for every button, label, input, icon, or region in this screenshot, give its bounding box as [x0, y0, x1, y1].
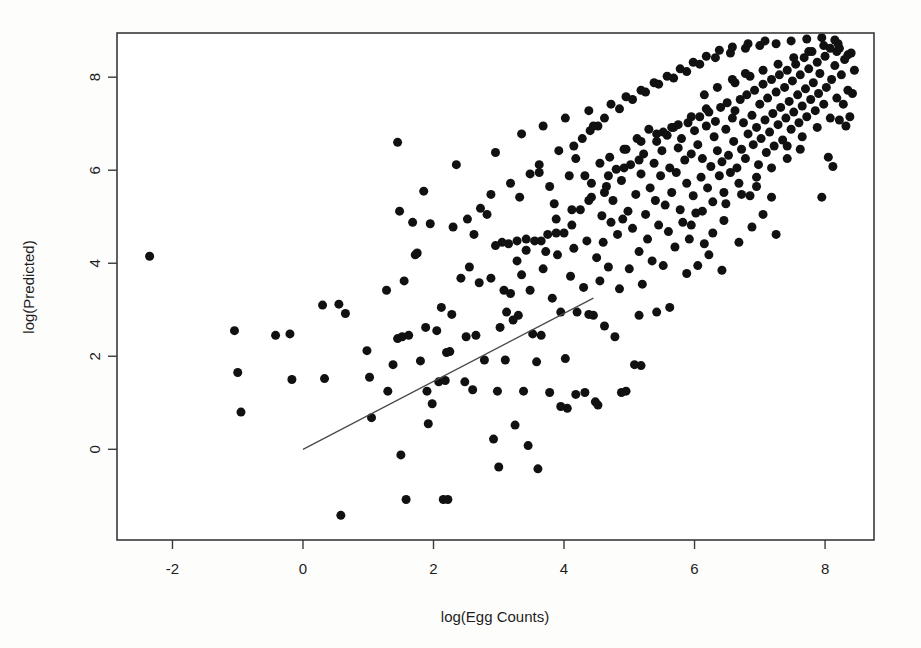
- data-point: [613, 230, 622, 239]
- data-point: [625, 264, 634, 273]
- data-point: [475, 278, 484, 287]
- y-tick-label: 2: [87, 352, 104, 360]
- data-point: [830, 35, 839, 44]
- data-point: [796, 70, 805, 79]
- data-point: [643, 235, 652, 244]
- data-point: [676, 205, 685, 214]
- data-point: [713, 146, 722, 155]
- data-point: [693, 140, 702, 149]
- data-point: [402, 495, 411, 504]
- data-point: [600, 322, 609, 331]
- y-tick-label: 8: [87, 73, 104, 81]
- data-point: [809, 78, 818, 87]
- data-point: [819, 41, 828, 50]
- data-point: [334, 300, 343, 309]
- data-point: [772, 88, 781, 97]
- data-point: [560, 229, 569, 238]
- data-point: [744, 39, 753, 48]
- data-point: [526, 286, 535, 295]
- data-point: [793, 90, 802, 99]
- data-point: [612, 165, 621, 174]
- x-tick-label: -2: [166, 560, 179, 577]
- data-point: [617, 176, 626, 185]
- data-point: [539, 122, 548, 131]
- data-point: [437, 303, 446, 312]
- data-point: [515, 193, 524, 202]
- data-point: [821, 52, 830, 61]
- data-point: [565, 171, 574, 180]
- data-point: [806, 95, 815, 104]
- data-point: [657, 146, 666, 155]
- data-point: [287, 375, 296, 384]
- data-point: [700, 239, 709, 248]
- data-point: [845, 112, 854, 121]
- data-point: [637, 137, 646, 146]
- data-point: [511, 421, 520, 430]
- data-point: [493, 387, 502, 396]
- data-point: [706, 162, 715, 171]
- data-point: [737, 190, 746, 199]
- data-point: [721, 199, 730, 208]
- data-point: [848, 89, 857, 98]
- data-point: [506, 289, 515, 298]
- data-point: [522, 235, 531, 244]
- data-point: [687, 112, 696, 121]
- data-point: [426, 219, 435, 228]
- data-point: [801, 84, 810, 93]
- data-point: [552, 229, 561, 238]
- data-point: [501, 355, 510, 364]
- data-point: [830, 61, 839, 70]
- data-point: [604, 262, 613, 271]
- data-point: [682, 179, 691, 188]
- data-point: [661, 201, 670, 210]
- data-point: [765, 128, 774, 137]
- data-point: [719, 216, 728, 225]
- data-point: [719, 188, 728, 197]
- data-point: [796, 145, 805, 154]
- data-point: [667, 188, 676, 197]
- data-point: [698, 207, 707, 216]
- data-point: [698, 154, 707, 163]
- data-point: [678, 218, 687, 227]
- data-point: [537, 331, 546, 340]
- figure-container: -202468 02468 log(Egg Counts) log(Predic…: [0, 0, 921, 648]
- data-point: [617, 388, 626, 397]
- data-point: [382, 286, 391, 295]
- data-point: [781, 114, 790, 123]
- data-point: [650, 159, 659, 168]
- data-point: [785, 97, 794, 106]
- data-point: [682, 269, 691, 278]
- data-point: [362, 346, 371, 355]
- data-point: [615, 104, 624, 113]
- data-point: [817, 33, 826, 42]
- data-point: [622, 92, 631, 101]
- data-point: [635, 311, 644, 320]
- data-point: [600, 114, 609, 123]
- data-point: [587, 179, 596, 188]
- data-point: [533, 464, 542, 473]
- data-point: [734, 179, 743, 188]
- data-point: [774, 60, 783, 69]
- data-point: [554, 146, 563, 155]
- data-point: [489, 435, 498, 444]
- data-point: [502, 308, 511, 317]
- data-point: [443, 495, 452, 504]
- data-point: [798, 102, 807, 111]
- data-point: [532, 357, 541, 366]
- data-point: [449, 222, 458, 231]
- data-point: [728, 75, 737, 84]
- data-point: [513, 256, 522, 265]
- data-point: [667, 123, 676, 132]
- data-point: [432, 326, 441, 335]
- data-point: [715, 171, 724, 180]
- data-point: [813, 123, 822, 132]
- data-point: [589, 122, 598, 131]
- data-point: [665, 303, 674, 312]
- data-point: [496, 323, 505, 332]
- data-point: [711, 117, 720, 126]
- data-point: [519, 387, 528, 396]
- data-point: [341, 309, 350, 318]
- data-point: [713, 83, 722, 92]
- data-point: [447, 310, 456, 319]
- data-point: [708, 197, 717, 206]
